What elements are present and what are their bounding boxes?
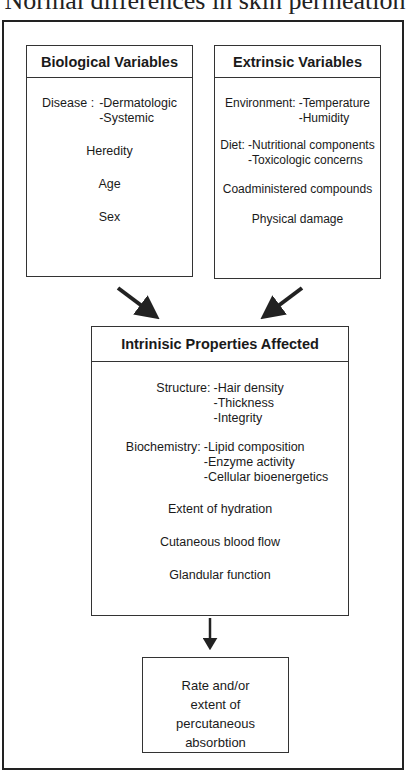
arrow-biological-to-intrinsic-icon bbox=[118, 288, 150, 312]
arrow-extrinsic-to-intrinsic-icon bbox=[270, 288, 302, 312]
flow-arrows bbox=[0, 0, 410, 776]
